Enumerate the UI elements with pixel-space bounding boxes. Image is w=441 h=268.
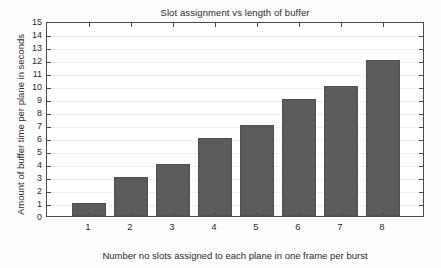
x-axis-tick-label: 7 <box>320 221 360 232</box>
y-axis-tick-right <box>419 205 423 206</box>
y-axis-tick <box>47 49 51 50</box>
y-axis-tick <box>47 166 51 167</box>
bar <box>240 125 274 216</box>
x-axis-tick <box>383 212 384 216</box>
plot-area <box>46 22 424 217</box>
bar <box>198 138 232 216</box>
x-axis-tick <box>257 212 258 216</box>
y-axis-tick-right <box>419 101 423 102</box>
y-axis-tick-label: 14 <box>18 31 42 39</box>
bar <box>114 177 148 216</box>
bar <box>324 86 358 216</box>
x-axis-tick-label: 8 <box>362 221 402 232</box>
y-axis-tick-label: 10 <box>18 83 42 91</box>
y-axis-tick-right <box>419 62 423 63</box>
y-axis-tick-right <box>419 49 423 50</box>
x-axis-tick-label: 1 <box>68 221 108 232</box>
y-axis-tick-label: 13 <box>18 44 42 52</box>
y-axis-tick <box>47 88 51 89</box>
y-axis-tick-label: 1 <box>18 200 42 208</box>
y-axis-tick-right <box>419 140 423 141</box>
y-axis-tick-right <box>419 153 423 154</box>
y-axis-tick <box>47 62 51 63</box>
x-axis-tick <box>341 212 342 216</box>
x-axis-tick-top <box>215 23 216 27</box>
bar <box>366 60 400 216</box>
y-axis-tick-right <box>419 114 423 115</box>
bar-series <box>47 23 423 216</box>
y-axis-tick-label: 9 <box>18 96 42 104</box>
x-axis-tick-labels: 12345678 <box>46 217 424 233</box>
x-axis-tick-top <box>89 23 90 27</box>
x-axis-tick-label: 4 <box>194 221 234 232</box>
y-axis-tick <box>47 114 51 115</box>
y-axis-tick-label: 12 <box>18 57 42 65</box>
y-axis-tick <box>47 179 51 180</box>
y-axis-tick-labels: 0123456789101112131415 <box>14 22 42 217</box>
y-axis-tick-label: 3 <box>18 174 42 182</box>
y-axis-tick-right <box>419 179 423 180</box>
x-axis-tick-top <box>173 23 174 27</box>
x-axis-tick-label: 2 <box>110 221 150 232</box>
x-axis-tick-top <box>257 23 258 27</box>
y-axis-tick-label: 7 <box>18 122 42 130</box>
y-axis-tick <box>47 153 51 154</box>
y-axis-tick <box>47 192 51 193</box>
x-axis-tick <box>89 212 90 216</box>
bar <box>282 99 316 216</box>
x-axis-tick <box>215 212 216 216</box>
x-axis-tick-label: 3 <box>152 221 192 232</box>
x-axis-tick-top <box>341 23 342 27</box>
y-axis-tick-label: 15 <box>18 18 42 26</box>
y-axis-tick-right <box>419 75 423 76</box>
y-axis-tick-right <box>419 36 423 37</box>
x-axis-tick-label: 5 <box>236 221 276 232</box>
y-axis-tick-label: 4 <box>18 161 42 169</box>
bar <box>156 164 190 216</box>
x-axis-title: Number no slots assigned to each plane i… <box>46 250 424 261</box>
y-axis-tick <box>47 140 51 141</box>
y-axis-tick-label: 2 <box>18 187 42 195</box>
y-axis-tick-right <box>419 127 423 128</box>
y-axis-tick-right <box>419 192 423 193</box>
y-axis-tick <box>47 101 51 102</box>
x-axis-tick-label: 6 <box>278 221 318 232</box>
y-axis-tick <box>47 127 51 128</box>
y-axis-tick <box>47 75 51 76</box>
y-axis-tick-right <box>419 166 423 167</box>
x-axis-tick-top <box>299 23 300 27</box>
bar-chart-figure: Slot assignment vs length of buffer Amou… <box>0 0 441 268</box>
x-axis-tick <box>173 212 174 216</box>
y-axis-tick-label: 5 <box>18 148 42 156</box>
x-axis-tick <box>299 212 300 216</box>
x-axis-tick-top <box>383 23 384 27</box>
y-axis-title-container: Amount of buffer time per plane in secon… <box>0 9 14 239</box>
y-axis-tick-right <box>419 88 423 89</box>
y-axis-tick-label: 8 <box>18 109 42 117</box>
x-axis-tick <box>131 212 132 216</box>
y-axis-tick-label: 0 <box>18 213 42 221</box>
y-axis-tick-label: 11 <box>18 70 42 78</box>
y-axis-tick-label: 6 <box>18 135 42 143</box>
y-axis-tick <box>47 36 51 37</box>
x-axis-tick-top <box>131 23 132 27</box>
y-axis-tick <box>47 205 51 206</box>
chart-title: Slot assignment vs length of buffer <box>46 7 424 18</box>
